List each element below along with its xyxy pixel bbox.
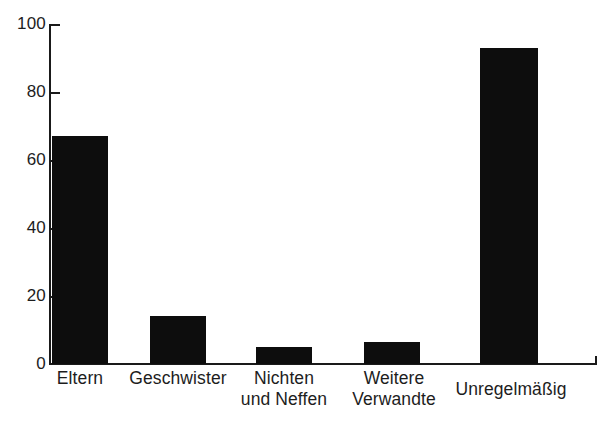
category-label-eltern-line1: Eltern [57,368,103,388]
category-label-weitere-line2: Verwandte [338,389,450,410]
bar-unregelmaessig [480,48,538,364]
bar-eltern [52,136,108,364]
category-label-eltern: Eltern [30,368,130,389]
bars-layer [0,24,610,364]
category-label-unregelmaessig: Unregelmäßig [450,368,572,400]
category-label-weitere-verwandte: Weitere Verwandte [338,368,450,410]
category-label-geschwister: Geschwister [118,368,238,389]
category-label-nichten-line1: Nichten [254,368,314,388]
bar-geschwister [150,316,206,364]
category-label-nichten-und-neffen: Nichten und Neffen [228,368,340,410]
category-label-geschwister-line1: Geschwister [129,368,226,388]
category-label-weitere-line1: Weitere [364,368,425,388]
bar-weitere-verwandte [364,342,420,364]
category-label-unregelmaessig-line1: Unregelmäßig [455,379,566,399]
bar-nichten-und-neffen [256,347,312,364]
bar-chart: 100 80 60 40 20 0 Eltern Geschwister Nic… [0,0,610,421]
category-label-nichten-line2: und Neffen [228,389,340,410]
category-labels: Eltern Geschwister Nichten und Neffen We… [0,368,610,421]
